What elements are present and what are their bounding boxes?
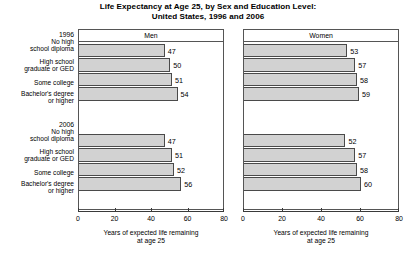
bar-women-2006-1 [244, 134, 345, 148]
bar-men-1996-1 [79, 44, 165, 58]
axis-tick [243, 208, 244, 211]
bar-women-2006-4 [244, 177, 361, 191]
category-label-line: Some college [0, 79, 74, 86]
axis-tick [115, 208, 116, 211]
category-label-2006-bachelors-degree-or-higher: Bachelor's degree or higher [0, 180, 74, 195]
chart-container: Life Expectancy at Age 25, by Sex and Ed… [0, 0, 416, 258]
category-label-line: graduate or GED [0, 65, 74, 72]
axis-tick [151, 208, 152, 211]
axis-tick [223, 208, 224, 211]
category-label-line: or higher [0, 187, 74, 194]
bar-men-2006-1 [79, 134, 165, 148]
axis-tick-label: 60 [176, 215, 200, 222]
x-axis-title-line1: Years of expected life remaining [243, 229, 399, 237]
bar-value-women-2006-1: 52 [348, 138, 356, 145]
category-label-line: Bachelor's degree [0, 180, 74, 187]
bar-women-1996-2 [244, 58, 355, 72]
bar-value-women-2006-3: 58 [360, 167, 368, 174]
bar-women-1996-3 [244, 73, 357, 87]
x-axis-title-line2: at age 25 [243, 237, 399, 245]
axis-tick-label: 20 [270, 215, 294, 222]
axis-tick [360, 208, 361, 211]
bar-value-women-2006-4: 60 [364, 181, 372, 188]
bar-men-2006-4 [79, 177, 181, 191]
axis-tick [78, 208, 79, 211]
axis-tick-label: 60 [348, 215, 372, 222]
category-label-line: No high [0, 128, 74, 135]
x-axis-title-line2: at age 25 [78, 237, 224, 245]
panel-women: Women [243, 29, 399, 210]
category-label-1996-bachelors-degree-or-higher: Bachelor's degree or higher [0, 90, 74, 105]
axis-tick [321, 208, 322, 211]
category-label-1996-high-school-graduate-or-ged: High school graduate or GED [0, 58, 74, 73]
bar-women-1996-4 [244, 87, 359, 101]
category-label-1996-some-college: Some college [0, 79, 74, 86]
category-label-line: No high [0, 38, 74, 45]
axis-tick-label: 40 [139, 215, 163, 222]
axis-tick-label: 0 [231, 215, 255, 222]
bar-value-women-1996-4: 59 [362, 91, 370, 98]
bar-value-men-1996-3: 51 [175, 77, 183, 84]
category-label-line: High school [0, 58, 74, 65]
axis-tick-label: 80 [387, 215, 411, 222]
category-label-line: Some college [0, 169, 74, 176]
category-label-2006-some-college: Some college [0, 169, 74, 176]
category-label-line: or higher [0, 97, 74, 104]
category-label-line: Bachelor's degree [0, 90, 74, 97]
category-label-line: school diploma [0, 45, 74, 52]
category-label-2006-high-school-graduate-or-ged: High school graduate or GED [0, 148, 74, 163]
bar-men-1996-4 [79, 87, 178, 101]
axis-tick-label: 40 [309, 215, 333, 222]
axis-tick-label: 20 [103, 215, 127, 222]
bar-value-women-1996-1: 53 [350, 48, 358, 55]
bar-value-women-1996-2: 57 [358, 62, 366, 69]
x-axis-title-line1: Years of expected life remaining [78, 229, 224, 237]
bar-value-women-2006-2: 57 [358, 152, 366, 159]
bar-women-2006-2 [244, 148, 355, 162]
axis-tick [398, 208, 399, 211]
x-axis-title-men: Years of expected life remaining at age … [78, 229, 224, 245]
bar-value-men-1996-2: 50 [173, 62, 181, 69]
category-label-1996-no-high-school-diploma: No high school diploma [0, 38, 74, 53]
plot-area-men [79, 42, 223, 209]
bar-men-2006-3 [79, 163, 174, 177]
bar-men-1996-2 [79, 58, 170, 72]
bar-value-men-2006-1: 47 [168, 138, 176, 145]
panel-title-men: Men [79, 30, 223, 42]
bar-women-2006-3 [244, 163, 357, 177]
plot-area-women [244, 42, 398, 209]
bar-value-men-2006-3: 52 [177, 167, 185, 174]
category-label-line: High school [0, 148, 74, 155]
category-label-column: 1996 No high school diploma High school … [0, 0, 76, 258]
category-label-2006-no-high-school-diploma: No high school diploma [0, 128, 74, 143]
bar-men-2006-2 [79, 148, 172, 162]
panel-men: Men [78, 29, 224, 210]
bar-value-men-1996-4: 54 [181, 91, 189, 98]
category-label-line: graduate or GED [0, 155, 74, 162]
bar-men-1996-3 [79, 73, 172, 87]
bar-value-men-2006-2: 51 [175, 152, 183, 159]
axis-tick-label: 0 [66, 215, 90, 222]
bar-value-men-1996-1: 47 [168, 48, 176, 55]
axis-tick [282, 208, 283, 211]
bar-women-1996-1 [244, 44, 347, 58]
bar-value-women-1996-3: 58 [360, 77, 368, 84]
x-axis-title-women: Years of expected life remaining at age … [243, 229, 399, 245]
axis-line [78, 211, 224, 212]
category-label-line: school diploma [0, 135, 74, 142]
panel-title-women: Women [244, 30, 398, 42]
bar-value-men-2006-4: 56 [184, 181, 192, 188]
axis-line [243, 211, 399, 212]
axis-tick [188, 208, 189, 211]
